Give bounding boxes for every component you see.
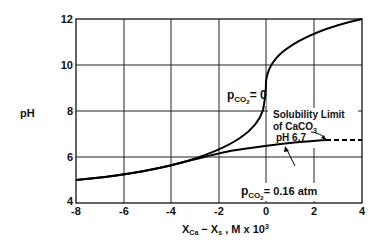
annotation-solubility-line3: pH 6.7	[276, 132, 306, 143]
annotation-solubility-line1: Solubility Limit	[273, 109, 345, 120]
svg-text:12: 12	[61, 13, 73, 25]
svg-text:-2: -2	[214, 205, 224, 217]
svg-text:10: 10	[61, 59, 73, 71]
y-tick-labels: 12 10 8 6 4	[61, 13, 74, 207]
y-axis-label: pH	[20, 107, 35, 119]
svg-text:-8: -8	[71, 205, 81, 217]
svg-text:-4: -4	[166, 205, 177, 217]
ph-chart: 12 10 8 6 4 -8 -6 -4 -2 0 2 4 pH XCa − X…	[0, 0, 381, 245]
svg-text:2: 2	[311, 205, 317, 217]
svg-text:6: 6	[67, 151, 73, 163]
x-tick-labels: -8 -6 -4 -2 0 2 4	[71, 205, 366, 217]
svg-text:-6: -6	[119, 205, 129, 217]
svg-text:8: 8	[67, 105, 73, 117]
x-axis-label: XCa − Xs , M x 103	[182, 223, 269, 236]
svg-text:4: 4	[359, 205, 366, 217]
svg-text:0: 0	[263, 205, 269, 217]
